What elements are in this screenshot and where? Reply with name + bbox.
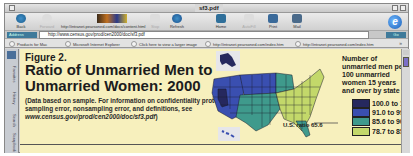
mail-icon xyxy=(292,14,302,23)
collapse-box-button[interactable] xyxy=(400,5,406,11)
tab-favorites[interactable]: Favorites xyxy=(7,63,17,85)
stop-button[interactable]: Stop xyxy=(143,14,167,30)
autofill-label: AutoFill xyxy=(242,24,255,29)
autofill-button[interactable]: AutoFill xyxy=(237,14,261,30)
legend-label: 91.0 to 99.9 xyxy=(372,108,401,117)
legend-title: Number of unmarried men per 100 unmarrie… xyxy=(342,55,401,95)
figure-note: (Data based on sample. For information o… xyxy=(25,97,235,121)
toolbar: Back Forward http://intranet.pearsoned.c… xyxy=(5,13,408,31)
favorite-link[interactable]: http://intranet.pearsoned.com/index.htm xyxy=(205,41,283,47)
tab-search[interactable]: Search xyxy=(7,111,17,129)
us-ratio-label: U.S. ratio 65.6 xyxy=(283,122,323,128)
refresh-label: Refresh xyxy=(170,24,184,29)
legend-swatch xyxy=(352,127,370,136)
note-text: (Data based on sample. For information o… xyxy=(25,97,235,112)
legend-label: 100.0 to 114.2 xyxy=(372,99,401,108)
status-url: http://intranet.pearsoned.com/docs/conte… xyxy=(61,24,146,29)
mail-label: Mail xyxy=(293,24,300,29)
stop-label: Stop xyxy=(151,24,159,29)
address-bar: Address http://www.census.gov/prod/cen20… xyxy=(5,31,408,39)
favorite-link[interactable]: Products for Mac xyxy=(9,41,47,47)
explorer-bar-icon[interactable] xyxy=(7,51,16,59)
go-button[interactable]: Go xyxy=(386,32,406,38)
window-title: sf3.pdf xyxy=(195,4,223,12)
legend-swatch xyxy=(352,99,370,108)
explorer-bar-tabs: Favorites History Search Scrapbook xyxy=(5,49,19,153)
print-icon xyxy=(268,14,278,23)
close-box-button[interactable] xyxy=(9,5,15,11)
tab-scrapbook[interactable]: Scrapbook xyxy=(7,133,17,151)
note-link[interactable]: www.census.gov/prod/cen2000/doc/sf3.pdf xyxy=(25,113,155,120)
legend-swatch xyxy=(352,117,370,126)
favorite-link[interactable]: Microsoft Internet Explorer xyxy=(65,41,120,47)
vertical-scrollbar[interactable] xyxy=(401,49,410,153)
content-area: Favorites History Search Scrapbook Figur… xyxy=(5,49,410,153)
banner-image xyxy=(97,14,127,23)
refresh-icon xyxy=(172,14,182,23)
home-label: Home xyxy=(216,24,227,29)
pdf-page: Figure 2. Ratio of Unmarried Men to Unma… xyxy=(20,49,401,145)
browser-window: sf3.pdf Back Forward http://intranet.pea… xyxy=(4,3,409,153)
legend-label: 85.6 to 90.9 xyxy=(372,117,401,126)
note-suffix: ) xyxy=(155,113,157,120)
legend-swatch xyxy=(352,108,370,117)
figure-title: Ratio of Unmarried Men to Unmarried Wome… xyxy=(25,62,235,94)
favorite-link[interactable]: Click here to view a larger image xyxy=(131,41,197,47)
home-icon xyxy=(216,14,226,23)
us-map xyxy=(210,49,340,145)
address-input[interactable]: http://www.census.gov/prod/cen2000/doc/s… xyxy=(39,31,369,39)
forward-button[interactable]: Forward xyxy=(35,14,59,30)
legend-label: 78.7 to 85.5 xyxy=(372,127,401,136)
title-bar[interactable]: sf3.pdf xyxy=(5,4,408,13)
ie-logo-icon: e xyxy=(388,15,402,29)
back-label: Back xyxy=(17,24,26,29)
page-bottom-strip xyxy=(20,145,401,153)
tab-history[interactable]: History xyxy=(7,89,17,107)
print-label: Print xyxy=(269,24,277,29)
forward-label: Forward xyxy=(40,24,55,29)
mail-button[interactable]: Mail xyxy=(285,14,309,30)
stop-icon xyxy=(150,14,160,23)
home-button[interactable]: Home xyxy=(209,14,233,30)
favorites-bar: Products for Mac Microsoft Internet Expl… xyxy=(5,39,408,48)
back-button[interactable]: Back xyxy=(9,14,33,30)
address-label: Address xyxy=(7,32,37,38)
scroll-thumb[interactable] xyxy=(403,57,409,67)
refresh-button[interactable]: Refresh xyxy=(165,14,189,30)
favorite-link[interactable]: http://intranet.pearsoned.com/index.htm xyxy=(295,41,373,47)
zoom-box-button[interactable] xyxy=(392,5,398,11)
print-button[interactable]: Print xyxy=(261,14,285,30)
scroll-up-arrow-icon[interactable] xyxy=(403,50,409,55)
autofill-icon xyxy=(244,14,254,23)
back-arrow-icon xyxy=(16,14,26,23)
favorites-more-icon[interactable]: » xyxy=(399,40,402,46)
forward-arrow-icon xyxy=(42,14,52,23)
